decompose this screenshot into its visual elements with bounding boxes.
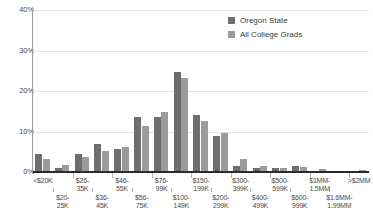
y-axis-tick-label: 10%	[4, 128, 34, 136]
plot-area	[33, 10, 369, 172]
y-axis-tick-label: 0%	[4, 168, 34, 176]
bar	[102, 151, 109, 172]
bar-chart: 40%30%20%10%0% <$20K$20-25K$26-35K$36-45…	[0, 0, 373, 218]
legend-swatch-icon	[228, 31, 235, 38]
bar	[122, 147, 129, 172]
legend-item-oregon-state: Oregon State	[228, 14, 302, 26]
bar	[75, 154, 82, 172]
bar-group	[114, 10, 132, 172]
bar-group	[75, 10, 93, 172]
legend-swatch-icon	[228, 17, 235, 24]
bar-group	[351, 10, 369, 172]
x-axis-tick-label: >$2MM	[336, 177, 373, 185]
bar-group	[134, 10, 152, 172]
bar-group	[174, 10, 192, 172]
bar	[114, 149, 121, 172]
bar	[221, 133, 228, 172]
bar-group	[332, 10, 350, 172]
bar	[193, 115, 200, 172]
legend: Oregon State All College Grads	[228, 14, 302, 42]
bar	[201, 121, 208, 172]
bar	[35, 154, 42, 172]
bar	[213, 136, 220, 172]
bar	[94, 144, 101, 172]
legend-item-all-college-grads: All College Grads	[228, 28, 302, 40]
y-axis-tick-label: 30%	[4, 47, 34, 55]
bar-group	[154, 10, 172, 172]
bar-group	[55, 10, 73, 172]
legend-label: All College Grads	[240, 30, 302, 39]
bar-group	[94, 10, 112, 172]
bar	[82, 157, 89, 172]
bar	[134, 117, 141, 172]
x-axis-tick-label: $1.6MM-1.99MM	[316, 194, 362, 210]
bar	[142, 126, 149, 172]
bar-group	[35, 10, 53, 172]
y-axis-tick-label: 20%	[4, 87, 34, 95]
x-axis-baseline	[33, 171, 369, 173]
x-axis-tick	[53, 188, 54, 192]
bar-group	[312, 10, 330, 172]
bar	[174, 72, 181, 172]
bar	[154, 117, 161, 172]
bar	[181, 78, 188, 172]
bar-group	[193, 10, 211, 172]
y-axis-tick-label: 40%	[4, 6, 34, 14]
bar	[161, 112, 168, 172]
legend-label: Oregon State	[240, 16, 288, 25]
